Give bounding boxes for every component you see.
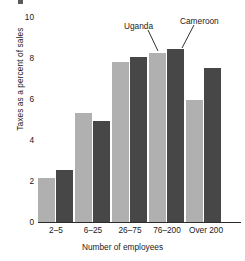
bar-cameroon-over-200 [204,68,221,222]
bar-group-76-200 [149,17,185,222]
y-tick-label-6: 6 [18,95,34,103]
x-axis-title: Number of employees [0,243,245,251]
y-tick-label-10: 10 [18,13,34,21]
bar-chart: Taxes as a percent of sales 10 8 6 4 2 0 [0,0,245,261]
y-tick-label-0: 0 [18,218,34,226]
y-tick-label-8: 8 [18,54,34,62]
annotation-label-cameroon: Cameroon [180,17,219,25]
bar-uganda-2-5 [38,178,55,222]
bar-cameroon-76-200 [167,49,184,222]
bar-cameroon-6-25 [93,121,110,222]
bar-group-26-75 [112,17,148,222]
y-tick-label-4: 4 [18,136,34,144]
bar-uganda-76-200 [149,53,166,222]
annotation-label-uganda: Uganda [124,22,153,30]
x-tick-label-over-200: Over 200 [181,226,231,234]
bar-uganda-6-25 [75,113,92,222]
y-tick-label-2: 2 [18,177,34,185]
plot-area [38,17,241,222]
bar-uganda-26-75 [112,62,129,222]
bar-cameroon-26-75 [130,57,147,222]
bar-cameroon-2-5 [56,170,73,222]
bar-uganda-over-200 [186,100,203,222]
bar-group-6-25 [75,17,111,222]
y-axis-tick-labels: 10 8 6 4 2 0 [14,0,34,261]
x-axis-line [38,222,241,223]
bar-group-over-200 [186,17,222,222]
bar-group-2-5 [38,17,74,222]
